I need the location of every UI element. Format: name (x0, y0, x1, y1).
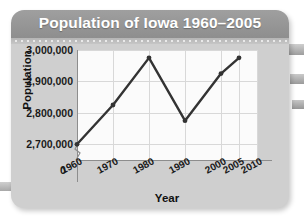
chart-title: Population of Iowa 1960–2005 (11, 14, 289, 32)
page-edge-artifact-right-1 (288, 44, 304, 55)
y-axis-tick-label: 3,000,000 (26, 44, 73, 56)
chart-body: 2,700,0002,800,0002,900,0003,000,000 0 P… (11, 44, 289, 208)
chart-card: Population of Iowa 1960–2005 2,700,0002,… (11, 10, 289, 208)
y-axis-tick-label: 2,800,000 (26, 107, 73, 119)
gridline-vertical (257, 50, 258, 160)
page-edge-artifact-right-3 (292, 100, 304, 109)
y-axis-tick-label: 2,700,000 (26, 138, 73, 150)
x-axis-title: Year (77, 192, 257, 204)
gridline-horizontal (77, 113, 257, 114)
y-axis-tick-label: 2,900,000 (26, 75, 73, 87)
gridline-horizontal (77, 50, 257, 51)
gridline-horizontal (77, 81, 257, 82)
gridline-horizontal (77, 144, 257, 145)
y-axis-title: Population (21, 32, 33, 128)
plot-area (77, 50, 257, 160)
page-edge-artifact-right-2 (290, 74, 304, 84)
